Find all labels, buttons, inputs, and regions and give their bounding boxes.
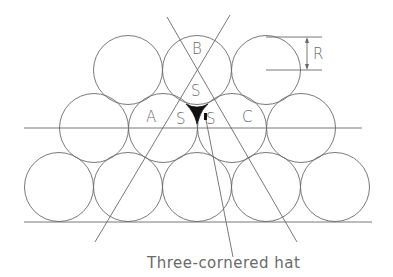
radius-dimension: R <box>266 37 323 70</box>
circle-top-0 <box>94 36 163 105</box>
circle-bottom-3 <box>232 153 301 222</box>
label-a-2: A <box>146 108 156 126</box>
arrow-down-icon <box>305 64 309 70</box>
three-cornered-hat-diagram: R BSASSC Three-cornered hat <box>0 0 393 277</box>
circle-bottom-0 <box>25 153 94 222</box>
circle-bottom-2 <box>163 153 232 222</box>
radius-label: R <box>313 45 323 63</box>
circle-bottom-4 <box>301 153 370 222</box>
circle-packing <box>25 36 370 222</box>
diagonal-line-backslash <box>167 17 297 242</box>
diagonal-line-slash <box>95 15 230 242</box>
arrow-up-icon <box>305 37 309 43</box>
label-s-4: S <box>206 110 216 128</box>
caption: Three-cornered hat <box>146 254 300 272</box>
label-c-5: C <box>242 108 252 126</box>
leader-line <box>206 120 233 257</box>
label-s-3: S <box>176 110 186 128</box>
label-b-0: B <box>192 40 202 58</box>
label-s-1: S <box>191 82 201 100</box>
